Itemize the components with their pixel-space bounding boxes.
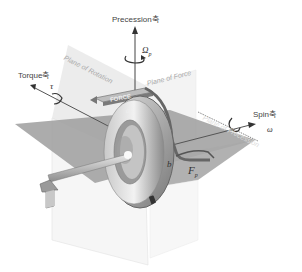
precession-axis-label: Precession축 — [112, 16, 159, 24]
fp-label: Fp — [188, 165, 198, 178]
omega-p-sub: p — [149, 51, 152, 57]
b-label: b — [167, 160, 172, 169]
diagram-graphics — [0, 0, 302, 272]
fp-sub: p — [195, 172, 198, 178]
torque-axis-label: Torque축 — [18, 72, 49, 80]
gyroscope-diagram: Precession축 Torque축 Spin축 Plane of Rotat… — [0, 0, 302, 272]
omega-p-symbol: Ωp — [142, 46, 152, 57]
a-label: a — [126, 107, 130, 115]
omega-symbol: ω — [267, 126, 273, 134]
gyroscope-wheel — [104, 96, 174, 208]
fp-text: F — [188, 164, 195, 176]
spin-axis-label: Spin축 — [253, 111, 276, 119]
tau-symbol: τ — [50, 82, 53, 91]
